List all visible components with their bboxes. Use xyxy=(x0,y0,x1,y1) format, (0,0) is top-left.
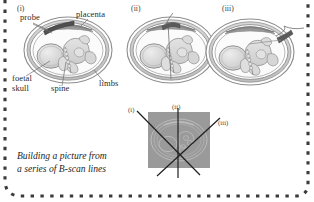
scan-line-ii-label: (ii) xyxy=(172,102,180,112)
foetal-skull-label: foetal skull xyxy=(12,74,32,93)
probe-label: probe xyxy=(20,13,40,23)
panel-ii-roman: (ii) xyxy=(131,4,141,14)
placenta-label: placenta xyxy=(76,10,105,20)
composite-scan-diagram xyxy=(137,108,220,178)
figure-caption: Building a picture from a series of B-sc… xyxy=(17,150,107,175)
spine-label: spine xyxy=(51,84,69,94)
scan-line-i-label: (i) xyxy=(128,105,135,115)
scan-line-iii-label: (iii) xyxy=(218,118,228,128)
panel-iii-roman: (iii) xyxy=(222,4,234,14)
limbs-label: limbs xyxy=(99,79,118,89)
panel-ii xyxy=(127,13,215,83)
panel-iii xyxy=(206,19,304,85)
panel-i xyxy=(24,17,112,86)
